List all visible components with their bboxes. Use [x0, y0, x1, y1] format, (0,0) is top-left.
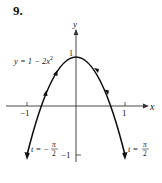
parametric-plot: x y −1 1 1 −1 y = 1 − 2x2 t = − π 2 t = …	[0, 0, 162, 183]
t-left-label: t = −	[31, 144, 49, 154]
t-left-two: 2	[52, 149, 56, 158]
y-tick-label-pos1: 1	[69, 49, 73, 58]
t-right-pi: π	[143, 140, 147, 149]
right-endpoint-arrow-icon	[122, 152, 127, 160]
x-axis-arrow-icon	[143, 104, 149, 109]
direction-arrow-icon	[53, 70, 58, 76]
y-tick-label-neg1: −1	[61, 150, 71, 160]
t-right-two: 2	[143, 149, 147, 158]
left-endpoint-arrow-icon	[25, 152, 30, 160]
x-axis-label: x	[149, 101, 155, 112]
x-tick-label-neg1: −1	[20, 108, 30, 118]
t-right-label: t =	[128, 144, 138, 154]
x-tick-label-pos1: 1	[122, 108, 127, 118]
y-axis-arrow-icon	[74, 29, 79, 35]
y-axis-label: y	[72, 19, 77, 29]
curve-equation-label: y = 1 − 2x2	[13, 55, 53, 66]
t-left-pi: π	[52, 140, 56, 149]
